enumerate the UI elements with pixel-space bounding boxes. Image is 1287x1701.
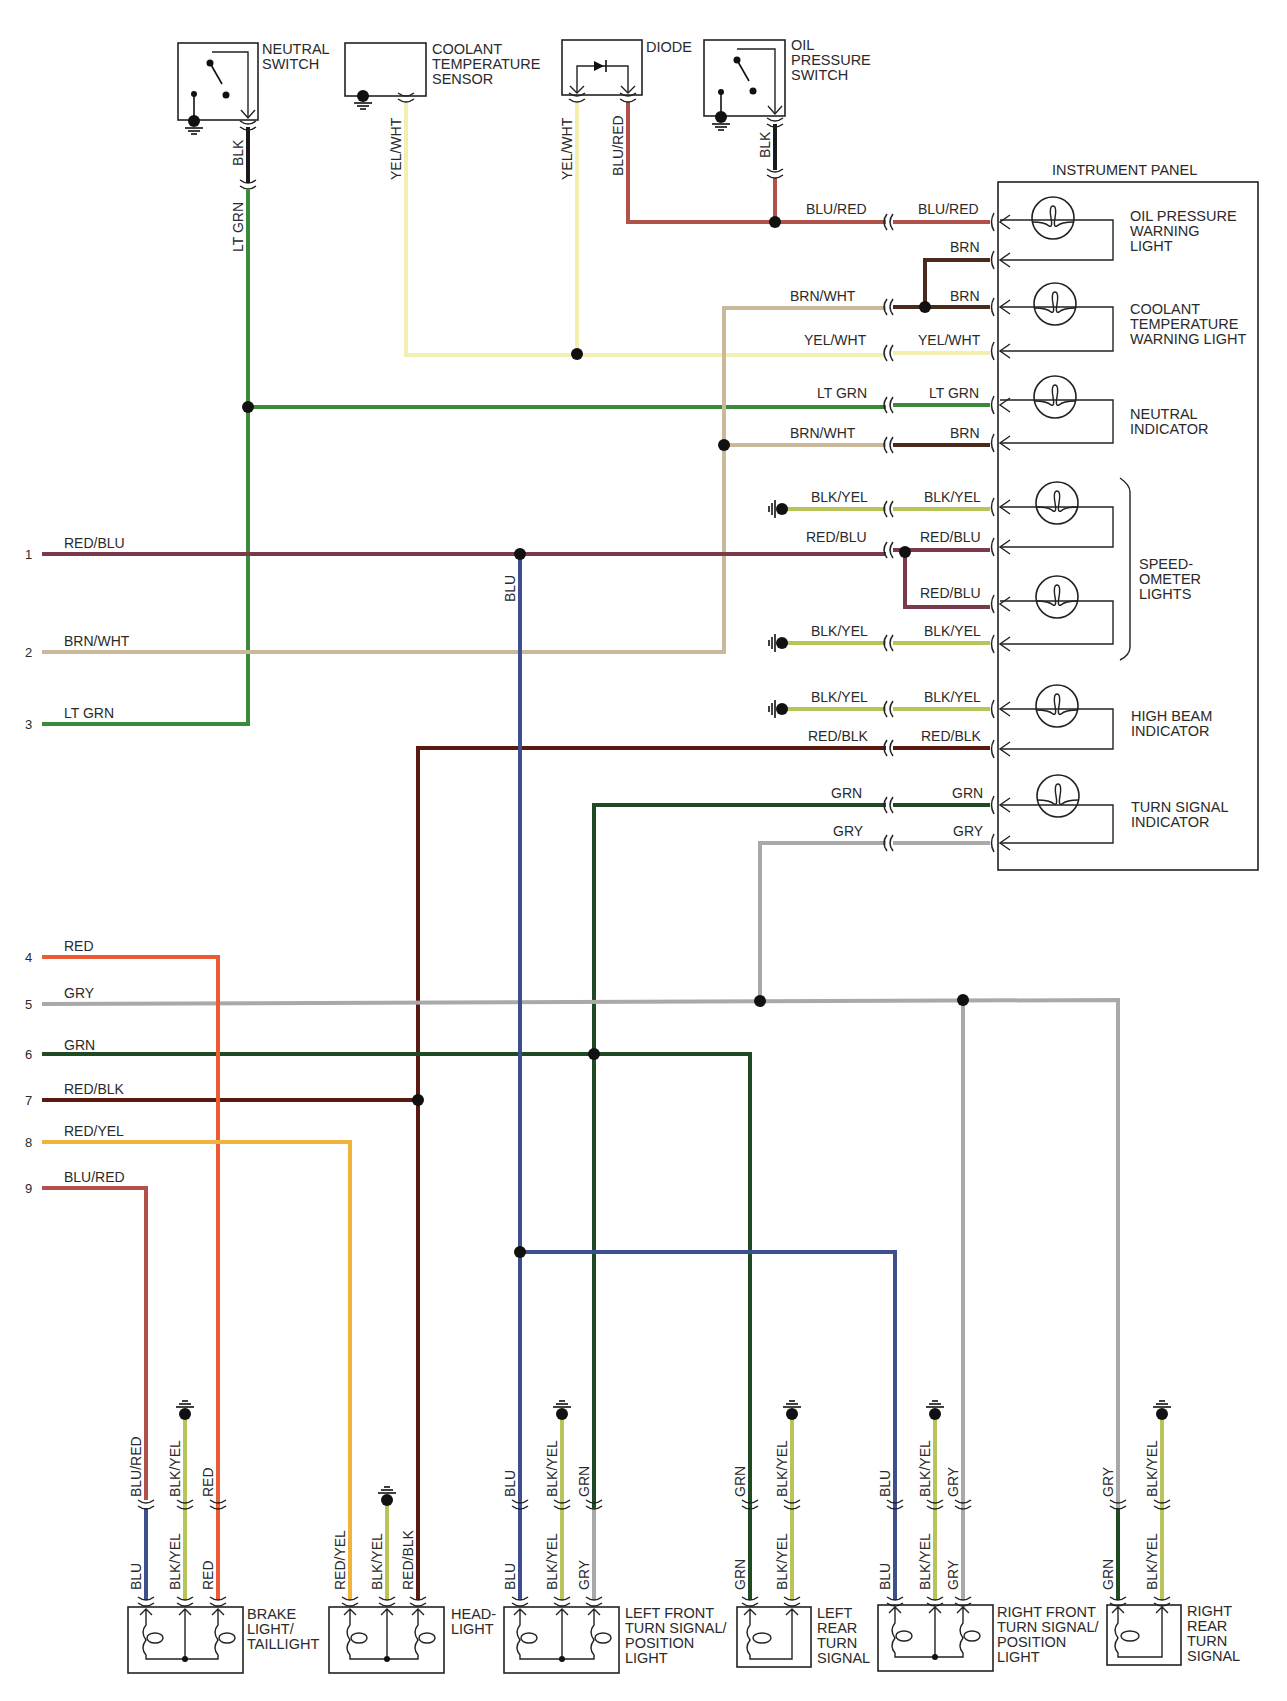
svg-text:3: 3: [25, 717, 32, 732]
turn-signal-indicator-light: [1000, 775, 1113, 843]
svg-text:GRN: GRN: [64, 1037, 95, 1053]
svg-text:BLU: BLU: [502, 1563, 518, 1590]
svg-text:BRN: BRN: [950, 425, 980, 441]
svg-text:GRY: GRY: [945, 1466, 961, 1497]
brake-light-taillight: [128, 1597, 243, 1673]
label-blu-trunk: BLU: [502, 575, 518, 602]
svg-text:BLK/YEL: BLK/YEL: [811, 689, 868, 705]
neutral-switch-label: NEUTRALSWITCH: [262, 41, 330, 72]
left-rear-label: LEFTREARTURNSIGNAL: [817, 1605, 870, 1666]
headlight: [329, 1597, 444, 1673]
left-front-turn-signal: [504, 1597, 619, 1673]
svg-text:BLK/YEL: BLK/YEL: [811, 623, 868, 639]
oil-pressure-warning-light: [1000, 197, 1113, 260]
svg-text:BLK/YEL: BLK/YEL: [369, 1533, 385, 1590]
label-yel-wht-diode: YEL/WHT: [559, 117, 575, 180]
speedometer-light-2: [1000, 576, 1113, 644]
svg-text:RED/YEL: RED/YEL: [64, 1123, 124, 1139]
instrument-panel: [998, 182, 1258, 870]
svg-text:BLU/RED: BLU/RED: [64, 1169, 125, 1185]
svg-text:YEL/WHT: YEL/WHT: [918, 332, 981, 348]
svg-text:9: 9: [25, 1181, 32, 1196]
oil-pressure-switch: [704, 40, 785, 130]
label-yel-wht-coolant: YEL/WHT: [388, 117, 404, 180]
svg-text:BLK/YEL: BLK/YEL: [167, 1533, 183, 1590]
coolant-light-label: COOLANTTEMPERATUREWARNING LIGHT: [1130, 301, 1246, 347]
svg-text:BRN: BRN: [950, 288, 980, 304]
label-blk-oil: BLK: [757, 131, 773, 158]
svg-text:BLK/YEL: BLK/YEL: [774, 1440, 790, 1497]
high-beam-indicator-label: HIGH BEAMINDICATOR: [1131, 708, 1212, 739]
wire-red-blk: [418, 748, 886, 1600]
oil-pressure-light-label: OIL PRESSUREWARNINGLIGHT: [1130, 208, 1237, 254]
coolant-sensor-label: COOLANTTEMPERATURESENSOR: [432, 41, 541, 87]
svg-text:6: 6: [25, 1047, 32, 1062]
label-lt-grn-vertical: LT GRN: [230, 202, 246, 252]
svg-text:RED/BLU: RED/BLU: [920, 585, 981, 601]
svg-text:2: 2: [25, 645, 32, 660]
coolant-warning-light: [1000, 283, 1113, 351]
instrument-panel-title: INSTRUMENT PANEL: [1052, 162, 1197, 178]
svg-text:BLU: BLU: [128, 1563, 144, 1590]
svg-text:BLU/RED: BLU/RED: [918, 201, 979, 217]
right-front-label: RIGHT FRONTTURN SIGNAL/POSITIONLIGHT: [997, 1604, 1099, 1665]
svg-text:BLU/RED: BLU/RED: [128, 1436, 144, 1497]
oil-pressure-switch-label: OILPRESSURESWITCH: [791, 37, 871, 83]
right-rear-turn-signal: [1107, 1597, 1181, 1665]
svg-text:RED/BLK: RED/BLK: [921, 728, 982, 744]
svg-text:RED/BLU: RED/BLU: [920, 529, 981, 545]
left-front-label: LEFT FRONTTURN SIGNAL/POSITIONLIGHT: [625, 1605, 727, 1666]
high-beam-indicator-light: [1000, 685, 1113, 749]
svg-text:GRN: GRN: [576, 1466, 592, 1497]
wire-brn-wht-trunk: [42, 308, 886, 652]
diode-label: DIODE: [646, 39, 692, 55]
speedometer-light-1: [1000, 482, 1113, 547]
svg-text:RED/YEL: RED/YEL: [332, 1530, 348, 1590]
svg-text:7: 7: [25, 1093, 32, 1108]
svg-text:RED/BLK: RED/BLK: [400, 1529, 416, 1590]
svg-text:1: 1: [25, 547, 32, 562]
svg-text:BRN/WHT: BRN/WHT: [790, 288, 856, 304]
wiring-diagram: NEUTRALSWITCH COOLANTTEMPERATURESENSOR D…: [0, 0, 1287, 1701]
svg-text:BRN: BRN: [950, 239, 980, 255]
svg-text:GRY: GRY: [64, 985, 95, 1001]
svg-text:BLU: BLU: [877, 1470, 893, 1497]
speedometer-lights-label: SPEED-OMETERLIGHTS: [1139, 556, 1201, 602]
svg-text:8: 8: [25, 1135, 32, 1150]
svg-text:BRN/WHT: BRN/WHT: [790, 425, 856, 441]
svg-text:BLK/YEL: BLK/YEL: [544, 1440, 560, 1497]
right-front-turn-signal: [878, 1597, 993, 1671]
svg-text:GRY: GRY: [953, 823, 984, 839]
wire-gry-turn: [760, 843, 886, 1001]
wire-harness-8-red-yel: [42, 1142, 350, 1600]
svg-text:RED/BLU: RED/BLU: [64, 535, 125, 551]
svg-text:BLK/YEL: BLK/YEL: [924, 623, 981, 639]
wire-blu-right-front: [520, 1252, 895, 1600]
svg-text:BLU: BLU: [502, 1470, 518, 1497]
svg-text:RED/BLK: RED/BLK: [64, 1081, 125, 1097]
speedometer-bracket: [1120, 478, 1130, 660]
svg-text:BLK/YEL: BLK/YEL: [917, 1533, 933, 1590]
svg-text:5: 5: [25, 997, 32, 1012]
label-blk-neutral: BLK: [230, 139, 246, 166]
bottom-upper-connectors: [138, 1500, 1170, 1509]
label-blu-red-diode: BLU/RED: [610, 115, 626, 176]
wire-coolant-yel-wht: [406, 102, 886, 355]
svg-text:BLK/YEL: BLK/YEL: [924, 489, 981, 505]
svg-text:RED/BLK: RED/BLK: [808, 728, 869, 744]
svg-text:BRN/WHT: BRN/WHT: [64, 633, 130, 649]
svg-text:BLK/YEL: BLK/YEL: [544, 1533, 560, 1590]
svg-text:GRN: GRN: [732, 1466, 748, 1497]
wire-harness-6-grn: [42, 1054, 750, 1600]
svg-text:GRN: GRN: [952, 785, 983, 801]
svg-text:BLK/YEL: BLK/YEL: [924, 689, 981, 705]
neutral-indicator-light: [1000, 376, 1113, 443]
svg-text:GRY: GRY: [833, 823, 864, 839]
panel-wire-labels: BLU/RED BLU/RED BRN BRN/WHT BRN YEL/WHT …: [790, 201, 984, 839]
svg-text:BLK/YEL: BLK/YEL: [811, 489, 868, 505]
svg-text:GRY: GRY: [576, 1559, 592, 1590]
svg-text:GRY: GRY: [945, 1559, 961, 1590]
svg-text:GRN: GRN: [831, 785, 862, 801]
svg-text:RED: RED: [200, 1467, 216, 1497]
svg-text:RED: RED: [64, 938, 94, 954]
